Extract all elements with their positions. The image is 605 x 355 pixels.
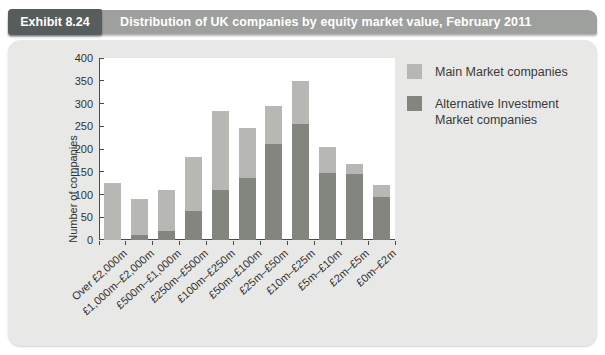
bar-segment-main-market [346, 164, 363, 174]
bar-4 [185, 58, 202, 240]
y-axis-tick-label: 250 [58, 119, 93, 133]
bar-segment-aim [212, 190, 229, 240]
bar-11 [373, 58, 390, 240]
bar-3 [158, 58, 175, 240]
bar-segment-main-market [212, 111, 229, 190]
x-axis-tick-mark [233, 241, 234, 245]
x-axis-tick-mark [341, 241, 342, 245]
bar-segment-aim [158, 231, 175, 240]
bar-5 [212, 58, 229, 240]
legend-swatch-aim [407, 96, 422, 111]
x-axis-tick-mark [179, 241, 180, 245]
exhibit-number-badge: Exhibit 8.24 [8, 9, 102, 35]
x-axis-tick-mark [99, 241, 100, 245]
y-axis-tick-label: 0 [58, 233, 93, 247]
bar-segment-aim [373, 197, 390, 240]
bar-segment-aim [292, 124, 309, 240]
legend-item-main-market: Main Market companies [407, 64, 568, 80]
bar-8 [292, 58, 309, 240]
bar-segment-main-market [319, 147, 336, 173]
x-axis-tick-mark [287, 241, 288, 245]
bar-2 [131, 58, 148, 240]
bar-segment-main-market [158, 190, 175, 231]
legend-item-aim: Alternative Investment Market companies [407, 96, 595, 128]
legend-label-aim: Alternative Investment Market companies [435, 96, 595, 128]
x-axis-tick-mark [260, 241, 261, 245]
bar-segment-aim [265, 144, 282, 240]
y-axis-tick-label: 100 [58, 188, 93, 202]
x-axis-tick-mark [395, 241, 396, 245]
bar-segment-main-market [185, 157, 202, 211]
y-axis-tick-label: 350 [58, 74, 93, 88]
bar-segment-aim [185, 211, 202, 240]
bar-segment-aim [131, 235, 148, 240]
bar-segment-main-market [104, 183, 121, 240]
bar-7 [265, 58, 282, 240]
bar-segment-main-market [265, 106, 282, 144]
y-axis-tick-label: 50 [58, 210, 93, 224]
y-axis-tick-label: 300 [58, 97, 93, 111]
bar-segment-main-market [292, 81, 309, 124]
bar-segment-main-market [373, 185, 390, 197]
legend-label-main-market: Main Market companies [435, 64, 568, 80]
bar-6 [239, 58, 256, 240]
y-axis-tick-label: 150 [58, 165, 93, 179]
legend-swatch-main-market [407, 64, 422, 79]
x-axis-tick-mark [152, 241, 153, 245]
bar-segment-main-market [131, 199, 148, 234]
figure-title: Distribution of UK companies by equity m… [120, 10, 587, 34]
x-axis-tick-mark [368, 241, 369, 245]
bar-segment-main-market [239, 128, 256, 178]
bar-9 [319, 58, 336, 240]
bar-segment-aim [239, 178, 256, 240]
bar-segment-aim [346, 174, 363, 240]
y-axis-tick-label: 200 [58, 142, 93, 156]
x-axis-tick-mark [206, 241, 207, 245]
bar-10 [346, 58, 363, 240]
y-axis-tick-label: 400 [58, 51, 93, 65]
x-axis-tick-mark [314, 241, 315, 245]
bar-segment-aim [319, 173, 336, 240]
figure: Distribution of UK companies by equity m… [0, 0, 605, 355]
bar-1 [104, 58, 121, 240]
x-axis-tick-mark [125, 241, 126, 245]
